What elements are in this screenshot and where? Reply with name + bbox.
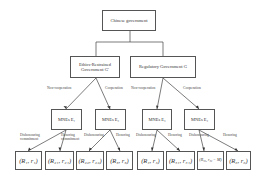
node-label: Ethics-Restrained Government G′ xyxy=(71,62,119,72)
payoff-leaf: (R₄, r₄) xyxy=(137,151,164,170)
payoff-label: (R₅₁, r₅₁) xyxy=(169,157,192,164)
mne-e2-node: MNEs E₂ xyxy=(95,109,126,130)
node-label: MNEs E₄ xyxy=(191,117,208,122)
node-label: Regulatory Government G xyxy=(139,64,187,69)
mne-e3-node: MNEs E₃ xyxy=(142,109,172,130)
edge-label: Non-cooperation xyxy=(47,87,71,91)
payoff-label: (R₅₂, r₅₂ − M) xyxy=(199,158,221,163)
payoff-leaf: (R₅₁, r₅₁) xyxy=(166,151,195,170)
edge-label: Dishonouring commitment xyxy=(20,134,42,141)
mne-e4-node: MNEs E₄ xyxy=(184,109,215,130)
mne-e1-node: MNEs E₁ xyxy=(51,109,82,130)
node-label: MNEs E₃ xyxy=(148,117,165,122)
payoff-label: (R₆, r₆) xyxy=(229,157,248,164)
payoff-label: (R₂₂, r₂₂) xyxy=(78,157,101,164)
payoff-leaf: (R₂₂, r₂₂) xyxy=(76,151,104,170)
payoff-label: (R₁, r₁) xyxy=(19,157,38,164)
ethics-restrained-government-node: Ethics-Restrained Government G′ xyxy=(70,56,120,78)
regulatory-government-node: Regulatory Government G xyxy=(130,56,196,78)
edge-label: Cooperation xyxy=(183,87,201,91)
payoff-label: (R₂₁, r₂₁) xyxy=(48,157,71,164)
edge-label: Honoring xyxy=(223,134,237,138)
edge-label: Dishonouring xyxy=(84,134,104,138)
edge-label: Honoring xyxy=(168,134,182,138)
payoff-leaf: (R₃, r₃) xyxy=(106,151,133,170)
edge-label: Cooperation xyxy=(105,87,123,91)
payoff-leaf: (R₆, r₆) xyxy=(226,151,251,170)
edge-label: Honoring commitment xyxy=(61,134,83,141)
payoff-label: (R₃, r₃) xyxy=(110,157,129,164)
payoff-leaf: (R₂₁, r₂₁) xyxy=(45,151,74,170)
node-label: MNEs E₂ xyxy=(102,117,119,122)
payoff-leaf: (R₁, r₁) xyxy=(15,151,42,170)
edge-label: Honoring xyxy=(116,134,130,138)
root-label: Chinese government xyxy=(110,18,147,23)
edge-label: Dishonouring xyxy=(189,134,209,138)
edge-label: Non-cooperation xyxy=(131,87,155,91)
edge-label: Dishonouring xyxy=(136,134,156,138)
node-label: MNEs E₁ xyxy=(58,117,75,122)
payoff-label: (R₄, r₄) xyxy=(141,157,160,164)
payoff-leaf: (R₅₂, r₅₂ − M) xyxy=(197,151,224,170)
root-node: Chinese government xyxy=(102,10,156,31)
